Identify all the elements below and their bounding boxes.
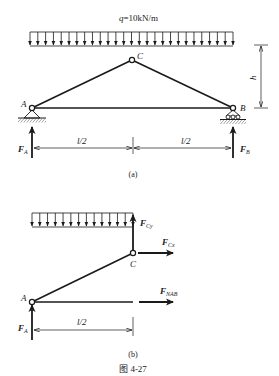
height-label: h — [248, 75, 258, 80]
span-right-label: l/2 — [181, 136, 191, 146]
force-fcy-label: FCy — [139, 218, 153, 229]
span-left-label: l/2 — [77, 136, 87, 146]
force-fb-label: FB — [239, 144, 250, 155]
panel-a-label: (a) — [129, 170, 138, 179]
span-dimension-a — [34, 137, 231, 154]
force-fnab-label: FNAB — [159, 286, 178, 297]
force-fcx-label: FCx — [161, 237, 175, 248]
node-c-label: C — [137, 51, 144, 61]
truss-members-b — [32, 253, 133, 302]
pin-c-icon-b — [130, 250, 135, 255]
load-label: q=10kN/m — [119, 13, 158, 23]
truss-members-a — [32, 60, 233, 108]
distributed-load-a — [30, 32, 233, 46]
node-a-label-b: A — [20, 293, 27, 303]
panel-b-label: (b) — [128, 350, 138, 359]
pin-c-icon — [129, 57, 134, 62]
force-fa-label-b: FA — [17, 323, 28, 334]
node-a-label: A — [20, 99, 27, 109]
pin-a-icon-b — [29, 299, 34, 304]
panel-a: q=10kN/m A C B — [17, 13, 268, 179]
truss-diagram: q=10kN/m A C B — [0, 0, 279, 376]
span-label-b: l/2 — [77, 317, 87, 327]
pinned-support-icon — [18, 110, 46, 123]
node-c-label-b: C — [130, 259, 137, 269]
force-fa-label-a: FA — [17, 144, 28, 155]
distributed-load-b — [32, 213, 133, 227]
figure-caption: 图 4-27 — [119, 364, 147, 374]
panel-b: FCy FCx FNAB C A FA l/2 (b) — [17, 213, 178, 359]
node-b-label: B — [240, 103, 246, 113]
